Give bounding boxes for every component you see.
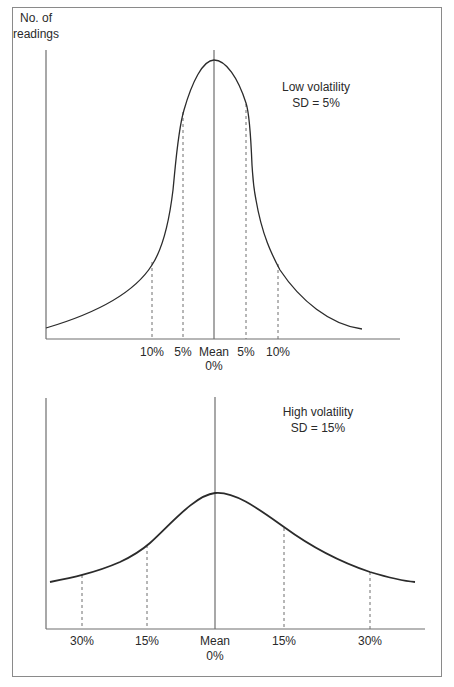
bottom-tick-label: 15% bbox=[272, 634, 296, 648]
top-tick-label: 5% bbox=[174, 345, 191, 359]
chart-canvas bbox=[0, 0, 454, 687]
top-tick-label: 10% bbox=[140, 345, 164, 359]
bottom-annotation-title: High volatility bbox=[283, 404, 354, 420]
bottom-tick-label: 15% bbox=[135, 634, 159, 648]
y-axis-label: No. of readings bbox=[3, 10, 69, 42]
top-tick-label: 5% bbox=[237, 345, 254, 359]
top-tick-label-mean: Mean bbox=[199, 345, 229, 359]
bottom-chart bbox=[46, 397, 425, 629]
top-annotation-title: Low volatility bbox=[282, 79, 350, 95]
bottom-tick-label: 30% bbox=[358, 634, 382, 648]
bottom-tick-label: 30% bbox=[70, 634, 94, 648]
bottom-tick-label-mean-value: 0% bbox=[206, 649, 223, 663]
top-tick-label: 10% bbox=[266, 345, 290, 359]
top-annotation-sd: SD = 5% bbox=[292, 95, 340, 111]
bottom-distribution-curve bbox=[50, 493, 415, 582]
bottom-annotation-sd: SD = 15% bbox=[291, 420, 345, 436]
bottom-tick-label-mean: Mean bbox=[200, 634, 230, 648]
top-tick-label-mean-value: 0% bbox=[205, 359, 222, 373]
